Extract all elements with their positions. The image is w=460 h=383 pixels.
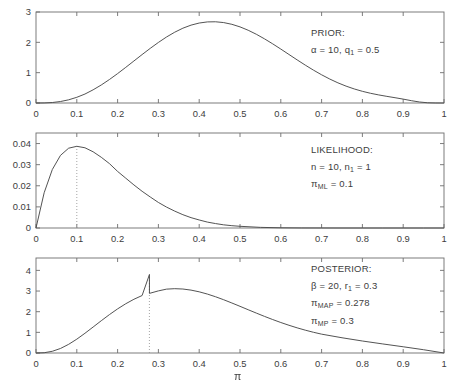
posterior-beta-r-pre: β = 20, r <box>311 280 348 291</box>
svg-text:0.3: 0.3 <box>152 108 165 119</box>
svg-text:1: 1 <box>441 358 446 369</box>
likelihood-plot: 0 0.01 0.02 0.03 0.04 0 0.1 0.2 0.3 0.4 … <box>0 125 460 253</box>
svg-text:0.5: 0.5 <box>233 233 246 244</box>
svg-text:0: 0 <box>26 97 31 108</box>
svg-text:0.2: 0.2 <box>111 358 124 369</box>
figure-bayesian-inference-panels: 0 1 2 3 0 0.1 0.2 0.3 0.4 0.5 0.6 0.7 0.… <box>0 0 460 383</box>
svg-text:0.01: 0.01 <box>13 201 31 212</box>
posterior-yticks <box>36 270 444 353</box>
prior-alpha-q-pre: α = 10, q <box>311 44 350 55</box>
svg-text:4: 4 <box>26 265 31 276</box>
posterior-map-subscript: MAP <box>318 302 334 309</box>
likelihood-annotation: LIKELIHOOD: n = 10, n1 = 1 πML = 0.1 <box>311 145 373 190</box>
posterior-xticks-top <box>77 258 403 262</box>
posterior-plot: 0 1 2 3 4 0 0.1 0.2 0.3 0.4 0.5 0.6 0.7 … <box>0 250 460 383</box>
svg-text:1: 1 <box>441 233 446 244</box>
likelihood-annotation-piml: πML = 0.1 <box>311 179 373 190</box>
prior-axes-frame <box>36 12 444 103</box>
likelihood-annotation-n: n = 10, n1 = 1 <box>311 162 373 173</box>
likelihood-yticks <box>36 144 444 228</box>
svg-text:0.1: 0.1 <box>70 358 83 369</box>
likelihood-piml-value: = 0.1 <box>328 178 353 189</box>
svg-text:0: 0 <box>33 108 38 119</box>
svg-text:0.8: 0.8 <box>356 358 369 369</box>
svg-text:0: 0 <box>33 233 38 244</box>
likelihood-xticks-top <box>77 133 403 137</box>
prior-annotation-params: α = 10, q1 = 0.5 <box>311 45 380 56</box>
svg-text:0.4: 0.4 <box>193 233 206 244</box>
posterior-yticklabels: 0 1 2 3 4 <box>26 265 31 359</box>
svg-text:0.8: 0.8 <box>356 233 369 244</box>
svg-text:0.9: 0.9 <box>397 108 410 119</box>
prior-yticklabels: 0 1 2 3 <box>26 6 31 108</box>
svg-text:1: 1 <box>441 108 446 119</box>
svg-text:0.9: 0.9 <box>397 233 410 244</box>
posterior-annotation-title: POSTERIOR: <box>311 264 377 274</box>
svg-text:0.7: 0.7 <box>315 233 328 244</box>
svg-text:0: 0 <box>26 347 31 358</box>
svg-text:0: 0 <box>26 222 31 233</box>
likelihood-n1-value: = 1 <box>354 161 371 172</box>
prior-xticklabels: 0 0.1 0.2 0.3 0.4 0.5 0.6 0.7 0.8 0.9 1 <box>33 108 446 119</box>
posterior-pimp-value: = 0.3 <box>329 315 354 326</box>
svg-text:0.8: 0.8 <box>356 108 369 119</box>
svg-text:0.5: 0.5 <box>233 108 246 119</box>
svg-text:0.2: 0.2 <box>111 233 124 244</box>
prior-annotation: PRIOR: α = 10, q1 = 0.5 <box>311 28 380 55</box>
prior-q-value: = 0.5 <box>354 44 379 55</box>
svg-text:0.6: 0.6 <box>274 108 287 119</box>
svg-text:0.6: 0.6 <box>274 233 287 244</box>
likelihood-xticklabels: 0 0.1 0.2 0.3 0.4 0.5 0.6 0.7 0.8 0.9 1 <box>33 233 446 244</box>
likelihood-axes-frame <box>36 133 444 228</box>
posterior-curve <box>36 275 444 354</box>
svg-text:0.7: 0.7 <box>315 358 328 369</box>
svg-text:2: 2 <box>26 37 31 48</box>
svg-text:0.2: 0.2 <box>111 108 124 119</box>
likelihood-ml-subscript: ML <box>318 183 328 190</box>
svg-text:2: 2 <box>26 306 31 317</box>
posterior-annotation-pimap: πMAP = 0.278 <box>311 298 377 309</box>
likelihood-annotation-title: LIKELIHOOD: <box>311 145 373 155</box>
posterior-annotation-params: β = 20, r1 = 0.3 <box>311 281 377 292</box>
svg-text:0.03: 0.03 <box>13 159 31 170</box>
svg-text:0.1: 0.1 <box>70 233 83 244</box>
prior-xticks-top <box>77 12 403 16</box>
likelihood-yticklabels: 0 0.01 0.02 0.03 0.04 <box>13 138 31 233</box>
svg-text:0: 0 <box>33 358 38 369</box>
svg-text:3: 3 <box>26 6 31 17</box>
panel-likelihood: 0 0.01 0.02 0.03 0.04 0 0.1 0.2 0.3 0.4 … <box>0 125 460 253</box>
svg-text:1: 1 <box>26 67 31 78</box>
likelihood-pi-symbol: π <box>311 178 318 189</box>
posterior-pi-map-symbol: π <box>311 297 318 308</box>
panel-posterior: 0 1 2 3 4 0 0.1 0.2 0.3 0.4 0.5 0.6 0.7 … <box>0 250 460 383</box>
likelihood-n-pre: n = 10, n <box>311 161 350 172</box>
svg-text:1: 1 <box>26 327 31 338</box>
svg-text:0.6: 0.6 <box>274 358 287 369</box>
svg-text:0.5: 0.5 <box>233 358 246 369</box>
svg-text:3: 3 <box>26 285 31 296</box>
posterior-r1-value: = 0.3 <box>352 280 377 291</box>
prior-xticks <box>36 99 444 103</box>
svg-text:0.02: 0.02 <box>13 180 31 191</box>
prior-curve <box>36 22 444 103</box>
svg-text:0.4: 0.4 <box>193 108 206 119</box>
svg-text:0.1: 0.1 <box>70 108 83 119</box>
svg-text:0.7: 0.7 <box>315 108 328 119</box>
posterior-annotation-pimp: πMP = 0.3 <box>311 316 377 327</box>
likelihood-curve <box>36 146 444 228</box>
svg-text:0.9: 0.9 <box>397 358 410 369</box>
posterior-mp-subscript: MP <box>318 319 329 326</box>
posterior-xticklabels: 0 0.1 0.2 0.3 0.4 0.5 0.6 0.7 0.8 0.9 1 <box>33 358 446 369</box>
posterior-pi-mp-symbol: π <box>311 315 318 326</box>
svg-text:0.4: 0.4 <box>193 358 206 369</box>
prior-annotation-title: PRIOR: <box>311 28 380 38</box>
posterior-annotation: POSTERIOR: β = 20, r1 = 0.3 πMAP = 0.278… <box>311 264 377 326</box>
svg-text:0.3: 0.3 <box>152 233 165 244</box>
svg-text:0.04: 0.04 <box>13 138 31 149</box>
posterior-axes-frame <box>36 258 444 353</box>
x-axis-label: π <box>234 370 241 382</box>
panel-prior: 0 1 2 3 0 0.1 0.2 0.3 0.4 0.5 0.6 0.7 0.… <box>0 0 460 128</box>
svg-text:0.3: 0.3 <box>152 358 165 369</box>
posterior-pimap-value: = 0.278 <box>334 297 370 308</box>
prior-yticks <box>36 12 444 103</box>
